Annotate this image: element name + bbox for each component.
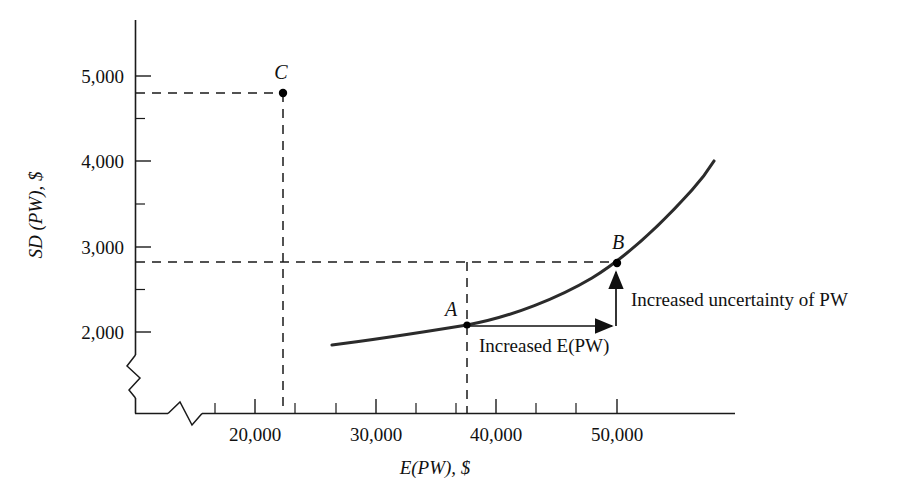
point-marker-c xyxy=(279,89,287,97)
x-tick-label-30000: 30,000 xyxy=(350,424,402,445)
y-tick-label-5000: 5,000 xyxy=(81,66,124,87)
y-axis xyxy=(127,20,140,414)
y-axis-title: SD (PW), $ xyxy=(25,171,47,259)
annotation-increased-epw: Increased E(PW) xyxy=(479,335,609,357)
x-tick-label-40000: 40,000 xyxy=(470,424,522,445)
risk-return-curve xyxy=(332,161,714,345)
y-tick-label-4000: 4,000 xyxy=(81,151,124,172)
x-axis-ticks xyxy=(215,399,617,414)
data-point-markers xyxy=(279,89,621,329)
x-axis-title: E(PW), $ xyxy=(399,457,471,479)
guide-lines xyxy=(136,93,614,413)
x-tick-label-50000: 50,000 xyxy=(591,424,643,445)
annotation-increased-uncertainty: Increased uncertainty of PW xyxy=(631,289,848,310)
x-tick-label-20000: 20,000 xyxy=(229,424,281,445)
x-axis-tick-labels: 20,000 30,000 40,000 50,000 xyxy=(229,424,643,445)
y-axis-tick-labels: 5,000 4,000 3,000 2,000 xyxy=(81,66,124,343)
y-tick-label-2000: 2,000 xyxy=(81,322,124,343)
y-tick-label-3000: 3,000 xyxy=(81,237,124,258)
chart-canvas: 5,000 4,000 3,000 2,000 20,000 30,000 40… xyxy=(0,0,902,492)
chart-figure: 5,000 4,000 3,000 2,000 20,000 30,000 40… xyxy=(0,0,902,492)
point-label-b: B xyxy=(612,231,624,253)
y-axis-ticks xyxy=(136,76,152,332)
point-marker-a xyxy=(463,321,470,328)
point-marker-b xyxy=(613,259,621,267)
point-label-a: A xyxy=(443,298,458,320)
x-axis xyxy=(135,402,735,425)
point-label-c: C xyxy=(274,61,288,83)
